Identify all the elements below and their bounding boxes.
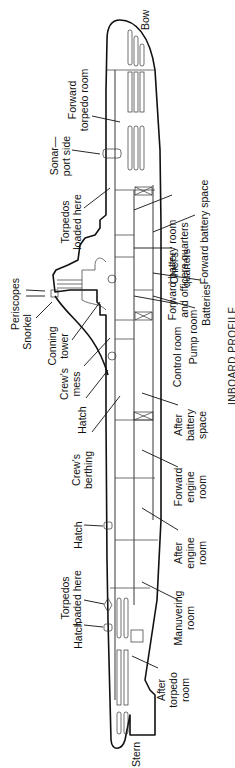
battery-markers (134, 187, 153, 420)
label-forward-torpedo-room: Forwardtorpedo room (66, 69, 90, 132)
label-hatch-1: Hatch (76, 406, 88, 434)
bow-label: Bow (139, 9, 151, 30)
label-crews-mess: Crew'smess (58, 368, 82, 400)
leader-arrows (26, 116, 200, 668)
label-pump-room: Pump room (187, 310, 199, 365)
label-after-torpedo-room: Aftertorpedoroom (155, 672, 191, 708)
label-crews-berthing: Crew'sberthing (70, 451, 94, 489)
label-batteries: Batteries (200, 284, 212, 325)
label-torpedos-loaded-here-aft: Torpedosloaded here (59, 570, 83, 626)
label-snorkel: Snorkel (21, 314, 33, 350)
label-sonar-port-side: Sonar—port side (48, 136, 72, 176)
label-hatch-3: Hatch (72, 621, 84, 649)
forward-torpedo-tubes (103, 30, 144, 170)
label-torpedos-loaded-here-fwd: Torpedosloaded here (59, 194, 83, 250)
label-periscopes: Periscopes (9, 278, 21, 330)
label-after-battery-space: Afterbatteryspace (172, 408, 208, 441)
label-control-room: Control room (171, 326, 183, 387)
diagram-title: INBOARD PROFILE (227, 306, 235, 405)
label-chiefs-quarters: Chief'squarters (168, 249, 192, 288)
label-forward-engine-room: Forwardengineroom (172, 468, 208, 507)
label-manuvering-room: Manuveringroom (172, 590, 196, 645)
label-hatch-2: Hatch (72, 521, 84, 549)
submarine-inboard-profile: Bow Stern INBOARD PROFILE Forwardtorpedo… (0, 0, 235, 768)
label-forward-battery-space: Forward battery space (198, 180, 210, 285)
stern-label: Stern (130, 742, 142, 767)
callout-labels: Forwardtorpedo roomSonar—port sideTorped… (9, 69, 212, 708)
label-after-engine-room: Afterengineroom (172, 537, 208, 569)
label-conning-tower: Conningtower (46, 326, 70, 365)
aft-torpedo-tubes (117, 598, 143, 734)
